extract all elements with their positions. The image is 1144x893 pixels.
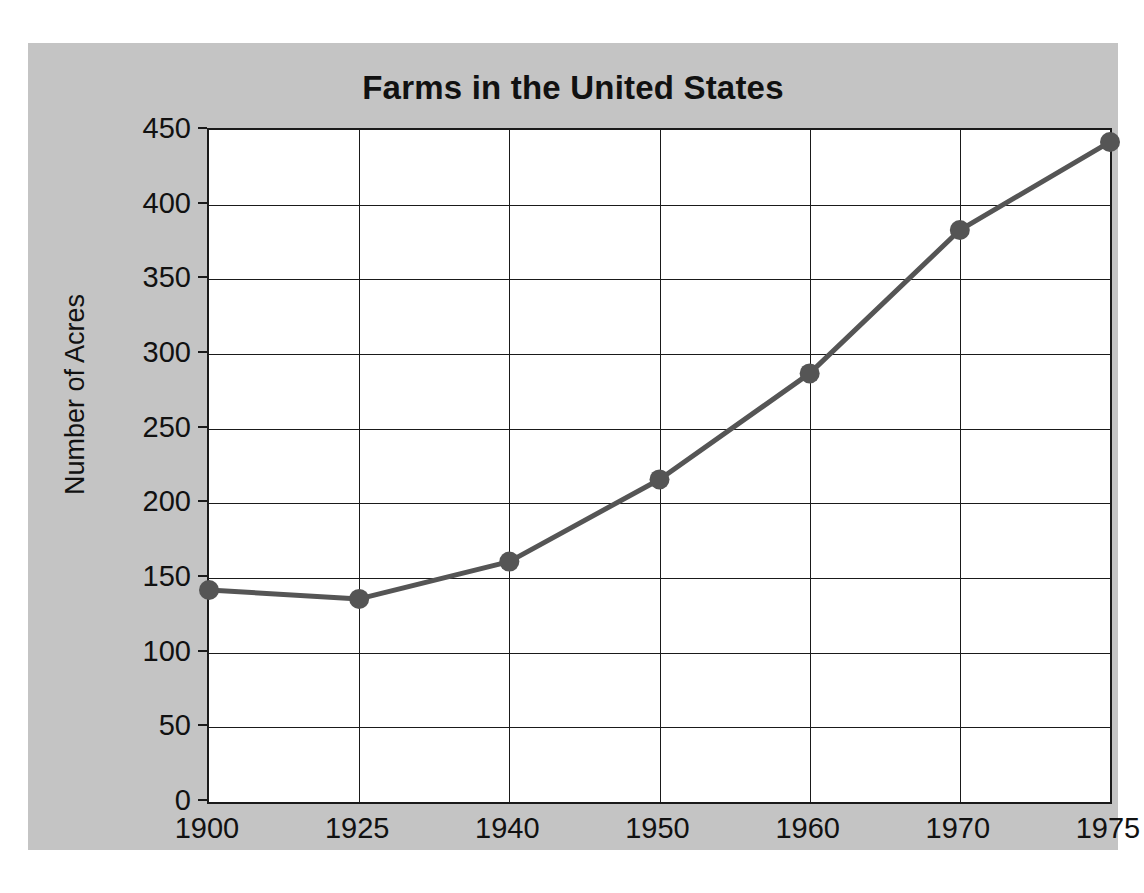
y-axis-tick-label: 150 <box>41 560 191 593</box>
x-axis-tick-label: 1940 <box>427 812 587 845</box>
y-axis-tick-mark <box>198 127 207 129</box>
data-point-marker <box>499 552 519 572</box>
data-point-marker <box>950 220 970 240</box>
y-axis-tick-label: 350 <box>41 261 191 294</box>
y-axis-tick-label: 250 <box>41 410 191 443</box>
y-axis-tick-mark <box>198 575 207 577</box>
plot-area <box>207 128 1112 804</box>
line-series <box>209 130 1110 802</box>
data-point-marker <box>199 580 219 600</box>
y-axis-tick-mark <box>198 500 207 502</box>
y-axis-tick-mark <box>198 426 207 428</box>
y-axis-tick-label: 300 <box>41 336 191 369</box>
x-axis-tick-label: 1970 <box>878 812 1038 845</box>
data-point-marker <box>800 363 820 383</box>
chart-figure-panel: Farms in the United States Number of Acr… <box>28 43 1118 850</box>
y-axis-tick-mark <box>198 202 207 204</box>
x-axis-tick-label: 1975 <box>1028 812 1144 845</box>
y-axis-tick-mark <box>198 276 207 278</box>
y-axis-tick-label: 450 <box>41 112 191 145</box>
x-axis-tick-label: 1900 <box>127 812 287 845</box>
y-axis-tick-label: 50 <box>41 709 191 742</box>
data-point-marker <box>650 469 670 489</box>
y-axis-tick-label: 200 <box>41 485 191 518</box>
y-axis-tick-mark <box>198 799 207 801</box>
y-axis-tick-mark <box>198 650 207 652</box>
y-axis-tick-mark <box>198 724 207 726</box>
y-axis-title: Number of Acres <box>60 285 91 505</box>
y-axis-tick-label: 100 <box>41 634 191 667</box>
data-point-marker <box>1100 132 1120 152</box>
x-axis-tick-label: 1925 <box>277 812 437 845</box>
data-point-marker <box>349 589 369 609</box>
y-axis-tick-mark <box>198 351 207 353</box>
chart-title: Farms in the United States <box>28 69 1118 107</box>
x-axis-tick-label: 1960 <box>728 812 888 845</box>
y-axis-tick-label: 400 <box>41 186 191 219</box>
series-line <box>209 142 1110 599</box>
x-axis-tick-label: 1950 <box>578 812 738 845</box>
